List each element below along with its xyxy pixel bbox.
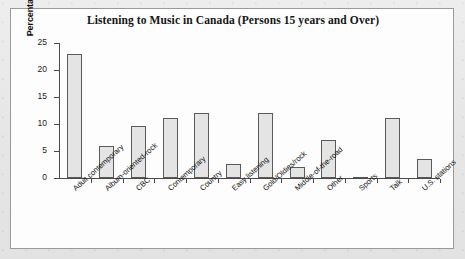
y-tick-label-10: 10 (38, 118, 47, 128)
x-tick-10 (408, 179, 409, 183)
bar-easy-listening (226, 164, 241, 178)
x-tick-2 (154, 179, 155, 183)
chart-title: Listening to Music in Canada (Persons 15… (11, 14, 455, 26)
x-label-sports: Sports (357, 172, 379, 193)
y-tick-label-0: 0 (42, 172, 47, 182)
plot-area: 0510152025 Adult contemporaryAlbum-orien… (59, 39, 440, 182)
y-tick-label-15: 15 (38, 91, 47, 101)
y-tick-label-5: 5 (42, 145, 47, 155)
y-tick-0: 0 (54, 178, 59, 179)
y-tick-label-25: 25 (38, 37, 47, 47)
y-tick-5: 5 (54, 151, 59, 152)
y-tick-15: 15 (54, 97, 59, 98)
y-axis-title: Percentage of population (25, 0, 37, 51)
x-label-talk: Talk (388, 177, 404, 193)
bar-contemporary (163, 118, 178, 178)
bar-adult-contemporary (67, 54, 82, 178)
figure-frame: Listening to Music in Canada (Persons 15… (10, 8, 454, 249)
y-tick-20: 20 (54, 70, 59, 71)
y-tick-10: 10 (54, 124, 59, 125)
bar-u-s-stations (417, 159, 432, 178)
y-tick-label-20: 20 (38, 64, 47, 74)
bar-talk (385, 118, 400, 178)
y-axis-line (59, 43, 60, 178)
y-tick-25: 25 (54, 43, 59, 44)
